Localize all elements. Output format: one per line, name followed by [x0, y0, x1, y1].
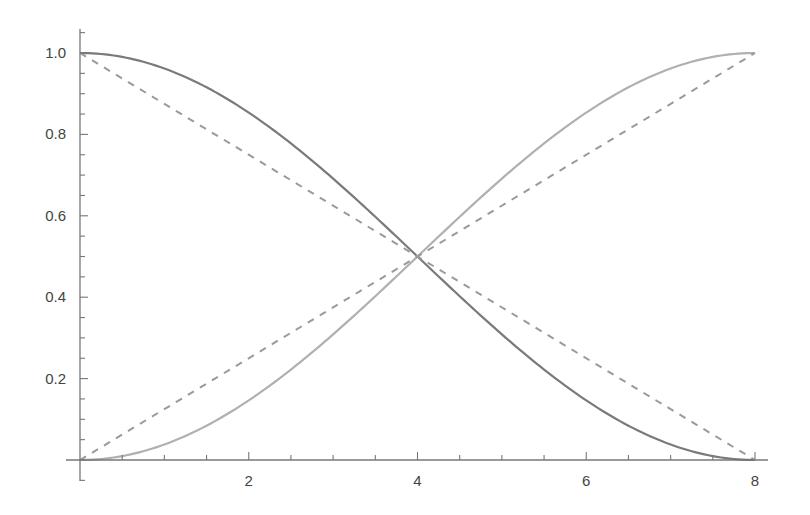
- x-tick-label: 8: [751, 472, 759, 489]
- x-axis-ticks: 2468: [122, 452, 759, 489]
- line-chart: 2468 0.20.40.60.81.0: [0, 0, 810, 515]
- y-tick-label: 0.8: [45, 125, 66, 142]
- y-tick-label: 0.4: [45, 288, 66, 305]
- plot-series: [80, 53, 755, 460]
- y-tick-label: 1.0: [45, 44, 66, 61]
- x-tick-label: 6: [582, 472, 590, 489]
- x-tick-label: 4: [413, 472, 421, 489]
- y-tick-label: 0.2: [45, 370, 66, 387]
- y-tick-label: 0.6: [45, 207, 66, 224]
- y-axis-ticks: 0.20.40.60.81.0: [45, 33, 88, 481]
- x-tick-label: 2: [245, 472, 253, 489]
